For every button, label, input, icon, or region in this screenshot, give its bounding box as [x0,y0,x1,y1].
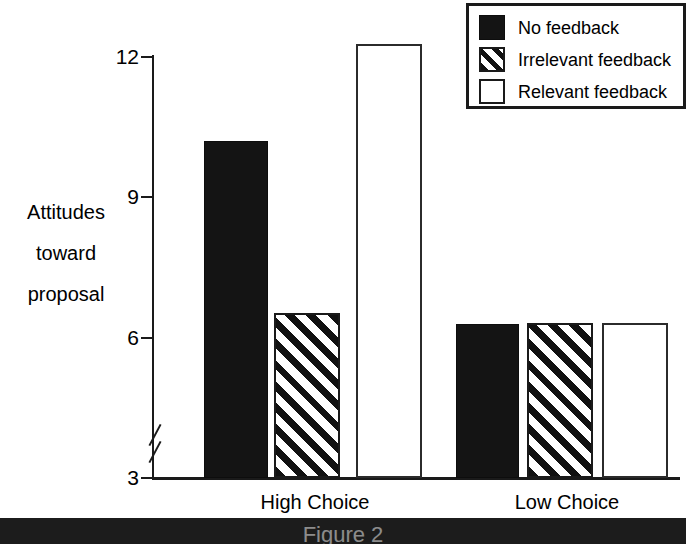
bar-chart-figure: Attitudes toward proposal 12 9 6 3 High … [0,0,686,544]
bar-high-choice-irrelevant-feedback [274,313,340,478]
x-axis-group-label-low-choice: Low Choice [452,491,682,513]
legend-item-no-feedback: No feedback [479,12,683,43]
bar-low-choice-no-feedback [456,324,519,478]
x-axis-group-label-high-choice: High Choice [200,491,430,513]
solid-square-icon [479,15,505,40]
axis-break-icon [139,424,167,466]
y-axis-label-12: 12 [95,46,139,67]
figure-caption-text: Figure 2 [0,523,686,544]
bar-high-choice-relevant-feedback [356,44,422,478]
legend-label-irrelevant-feedback: Irrelevant feedback [518,50,671,70]
open-square-icon [479,79,505,104]
y-axis-tick-9 [141,196,153,198]
y-axis-label-9: 9 [95,186,139,207]
y-axis-title-line-3: proposal [6,274,126,315]
y-axis-title-line-2: toward [6,233,126,274]
legend-item-irrelevant-feedback: Irrelevant feedback [479,44,683,75]
figure-caption-band: Figure 2 [0,518,686,544]
y-axis-tick-12 [141,56,153,58]
y-axis-label-3: 3 [95,467,139,488]
y-axis-title: Attitudes toward proposal [6,192,126,315]
y-axis-line [152,55,154,479]
y-axis-tick-6 [141,337,153,339]
bar-low-choice-irrelevant-feedback [527,323,593,478]
legend: No feedback Irrelevant feedback Relevant… [466,3,686,109]
bar-high-choice-no-feedback [204,141,268,478]
y-axis-label-6: 6 [95,327,139,348]
legend-item-relevant-feedback: Relevant feedback [479,76,683,107]
legend-label-no-feedback: No feedback [518,18,619,38]
bar-low-choice-relevant-feedback [602,323,668,478]
legend-label-relevant-feedback: Relevant feedback [518,82,667,102]
hatched-square-icon [479,47,505,72]
